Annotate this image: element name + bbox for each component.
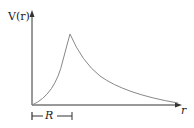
x-axis-label: r (181, 104, 186, 117)
y-axis-arrow-icon (30, 10, 35, 17)
y-axis-label: V(r) (8, 10, 30, 23)
curve-decaying (70, 34, 178, 103)
interval-label: R (45, 109, 53, 122)
curve-rising (32, 34, 70, 105)
